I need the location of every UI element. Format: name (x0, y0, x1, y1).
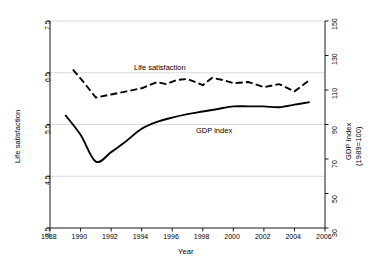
gdp-index-series-path (65, 102, 309, 162)
annotation-life-satisfaction: Life satisfaction (134, 63, 186, 72)
y-tick-label-left: 4.5 (44, 176, 51, 186)
gridlines (50, 21, 325, 176)
x-tick-label: 2004 (285, 233, 301, 240)
x-tick-label: 2006 (316, 233, 332, 240)
annotation-gdp-index: GDP index (196, 126, 232, 135)
y-tick-label-right: 150 (331, 18, 338, 30)
series-life-satisfaction-line (73, 70, 310, 98)
y-tick-label-right: 70 (331, 160, 338, 168)
y-tick-label-left: 5.5 (44, 124, 51, 134)
x-tick-label: 1996 (163, 233, 179, 240)
plot-canvas (0, 0, 374, 270)
x-axis-title: Year (178, 247, 194, 256)
x-tick-label: 1998 (194, 233, 210, 240)
y-tick-label-right: 130 (331, 53, 338, 65)
y-axis-right-title-line2: (1989=100) (355, 126, 364, 166)
y-tick-label-left: 7.5 (44, 20, 51, 30)
x-tick-label: 2000 (224, 233, 240, 240)
x-tick-label: 1990 (72, 233, 88, 240)
y-axis-left-title: Life satisfaction (13, 110, 22, 163)
y-tick-label-right: 50 (331, 195, 338, 203)
y-axis-right-title-line1: GDP Index (345, 123, 354, 160)
y-tick-label-left: 3.5 (44, 227, 51, 237)
y-tick-label-right: 90 (331, 126, 338, 134)
chart-figure: Life satisfaction GDP Index (1989=100) Y… (0, 0, 374, 270)
series-gdp-index-line (65, 102, 309, 162)
tick-marks (47, 21, 329, 232)
x-tick-label: 1992 (102, 233, 118, 240)
y-tick-label-left: 6.5 (44, 72, 51, 82)
x-tick-label: 1994 (133, 233, 149, 240)
y-tick-label-right: 30 (331, 229, 338, 237)
x-tick-label: 2002 (255, 233, 271, 240)
y-tick-label-right: 110 (331, 88, 338, 99)
life-satisfaction-series-path (73, 70, 310, 98)
